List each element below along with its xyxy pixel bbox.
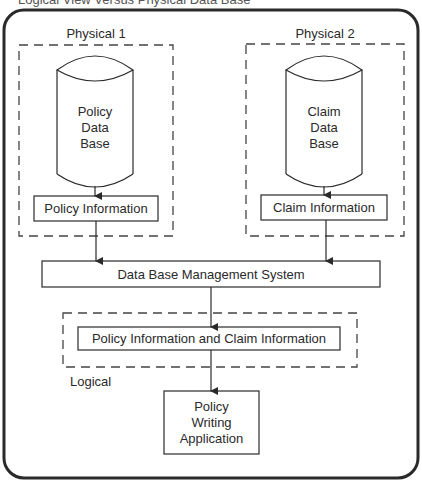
logical-label: Logical: [70, 374, 111, 389]
policy-database-line1: Policy: [57, 104, 133, 120]
app-line1: Policy: [164, 399, 259, 415]
claim-database-line1: Claim: [286, 104, 362, 120]
physical2-label: Physical 2: [275, 26, 375, 41]
policy-writing-application-label: Policy Writing Application: [164, 399, 259, 447]
combined-information-label: Policy Information and Claim Information: [78, 331, 340, 346]
dbms-label: Data Base Management System: [42, 267, 380, 282]
claim-information-label: Claim Information: [261, 200, 387, 215]
app-line3: Application: [164, 431, 259, 447]
physical1-label: Physical 1: [46, 26, 146, 41]
claim-database-line2: Data: [286, 120, 362, 136]
claim-database-line3: Base: [286, 136, 362, 152]
policy-database-line2: Data: [57, 120, 133, 136]
policy-information-label: Policy Information: [34, 201, 158, 216]
claim-database-label: Claim Data Base: [286, 104, 362, 152]
policy-database-label: Policy Data Base: [57, 104, 133, 152]
app-line2: Writing: [164, 415, 259, 431]
policy-database-line3: Base: [57, 136, 133, 152]
